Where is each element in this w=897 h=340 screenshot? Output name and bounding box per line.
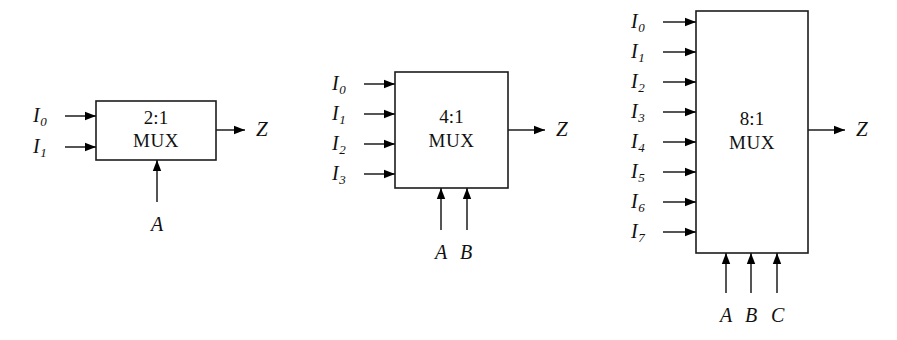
- mux-4-1-select-arrow-0: [437, 188, 445, 199]
- mux-8-1-select-label-a: A: [720, 305, 732, 325]
- mux-8-1-input-label-i0: I0: [631, 11, 644, 31]
- mux-8-1-input-arrow-0: [685, 18, 696, 26]
- mux-8-1-input-arrow-1: [685, 48, 696, 56]
- mux-8-1-input-arrow-5: [685, 168, 696, 176]
- mux-8-1-output-label: Z: [856, 119, 868, 140]
- mux-8-1-input-arrow-7: [685, 228, 696, 236]
- mux-8-1-input-label-i3: I3: [631, 101, 644, 121]
- mux-2-1-select-label-a: A: [151, 214, 163, 234]
- mux-4-1-input-arrow-2: [384, 140, 395, 148]
- mux-2-1-input-arrow-1: [85, 143, 96, 151]
- mux-2-1-input-arrow-0: [85, 112, 96, 120]
- mux-4-1-input-label-i1: I1: [332, 103, 345, 123]
- mux-8-1-input-arrow-4: [685, 138, 696, 146]
- mux-4-1-output-label: Z: [556, 119, 568, 140]
- mux-8-1-input-label-i4: I4: [631, 131, 644, 151]
- mux-4-1-select-label-a: A: [435, 242, 447, 262]
- mux-8-1-input-label-i2: I2: [631, 71, 644, 91]
- mux-8-1-input-label-i1: I1: [631, 41, 644, 61]
- mux-diagram-figure: 2:1MUXI0I1AZ4:1MUXI0I1I2I3ABZ8:1MUXI0I1I…: [0, 0, 897, 340]
- mux-4-1-label: 4:1MUX: [395, 105, 508, 153]
- mux-2-1-mux-text: MUX: [96, 129, 216, 153]
- mux-4-1-input-arrow-3: [384, 170, 395, 178]
- mux-8-1-select-label-b: B: [745, 305, 757, 325]
- mux-2-1-select-arrow-0: [153, 160, 161, 171]
- mux-8-1-output-arrow: [834, 126, 845, 134]
- mux-4-1-input-label-i3: I3: [332, 163, 345, 183]
- mux-4-1-select-label-b: B: [460, 242, 472, 262]
- mux-4-1-input-label-i2: I2: [332, 133, 345, 153]
- mux-8-1-select-arrow-2: [773, 253, 781, 264]
- mux-8-1-label: 8:1MUX: [696, 107, 808, 155]
- mux-8-1-select-label-c: C: [771, 305, 784, 325]
- mux-8-1-mux-text: MUX: [696, 131, 808, 155]
- mux-4-1-select-arrow-1: [463, 188, 471, 199]
- mux-8-1-select-arrow-1: [747, 253, 755, 264]
- mux-8-1-input-arrow-6: [685, 198, 696, 206]
- mux-8-1-select-arrow-0: [722, 253, 730, 264]
- mux-8-1-input-arrow-3: [685, 108, 696, 116]
- mux-2-1-input-label-i1: I1: [33, 136, 46, 156]
- mux-4-1-output-arrow: [534, 126, 545, 134]
- mux-8-1-ratio-text: 8:1: [696, 107, 808, 131]
- mux-4-1-mux-text: MUX: [395, 129, 508, 153]
- mux-2-1-output-label: Z: [256, 119, 268, 140]
- mux-2-1-input-label-i0: I0: [33, 105, 46, 125]
- mux-8-1-input-arrow-2: [685, 78, 696, 86]
- mux-8-1-input-label-i5: I5: [631, 161, 644, 181]
- mux-4-1-input-arrow-1: [384, 110, 395, 118]
- mux-2-1-label: 2:1MUX: [96, 106, 216, 154]
- mux-2-1-output-arrow: [234, 126, 245, 134]
- mux-4-1-input-label-i0: I0: [332, 73, 345, 93]
- mux-8-1-input-label-i6: I6: [631, 191, 644, 211]
- mux-4-1-ratio-text: 4:1: [395, 105, 508, 129]
- mux-2-1-ratio-text: 2:1: [96, 106, 216, 130]
- mux-4-1-input-arrow-0: [384, 80, 395, 88]
- mux-8-1-input-label-i7: I7: [631, 221, 644, 241]
- mux-diagram-canvas: [0, 0, 897, 340]
